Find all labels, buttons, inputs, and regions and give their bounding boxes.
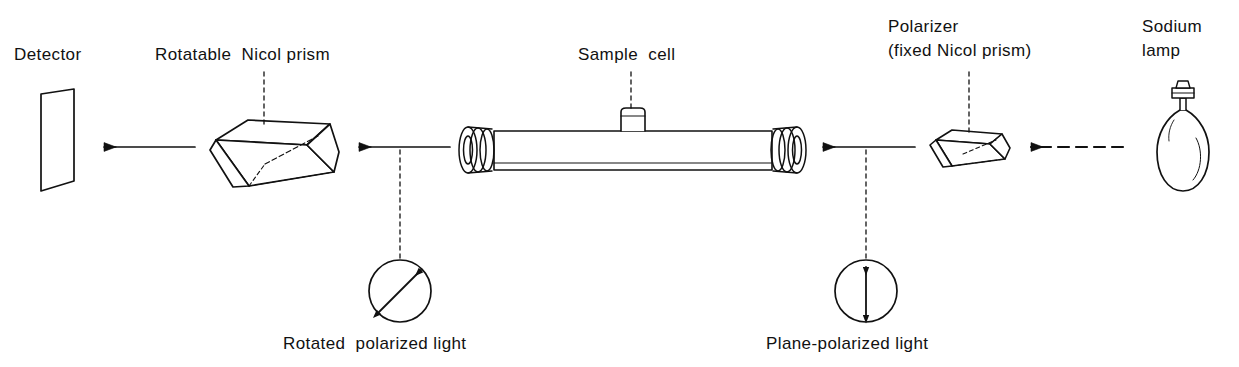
rotatable-nicol-prism	[210, 120, 339, 187]
sample-cell	[459, 108, 806, 173]
plane-polarized-light-callout	[835, 260, 897, 322]
rotated-polarized-light-callout	[369, 260, 431, 322]
diagram-artwork	[0, 0, 1239, 367]
sodium-lamp-bulb	[1157, 81, 1209, 191]
polarizer-prism	[930, 130, 1010, 167]
detector-screen	[41, 89, 74, 191]
polarimeter-diagram: Detector Rotatable Nicol prism Sample ce…	[0, 0, 1239, 367]
